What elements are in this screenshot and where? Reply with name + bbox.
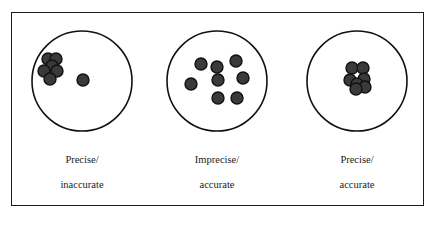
shot-dot: [346, 62, 358, 74]
shot-dot: [212, 92, 224, 104]
shot-dot: [211, 61, 223, 73]
shot-dot: [44, 73, 56, 85]
label-imprecise-accurate-line1: Imprecise/: [157, 155, 277, 166]
label-precise-inaccurate-line2: inaccurate: [22, 180, 142, 191]
shot-dot: [237, 72, 249, 84]
shot-dot: [77, 74, 89, 86]
shot-dot: [350, 83, 362, 95]
shot-dot: [231, 92, 243, 104]
label-precise-accurate-line2: accurate: [297, 180, 417, 191]
shot-dot: [185, 78, 197, 90]
target-precise-accurate: [307, 31, 407, 131]
shot-dot: [195, 58, 207, 70]
label-imprecise-accurate-line2: accurate: [157, 180, 277, 191]
target-imprecise-accurate: [167, 31, 267, 131]
shot-dot: [212, 74, 224, 86]
target-precise-inaccurate: [32, 31, 132, 131]
label-precise-inaccurate-line1: Precise/: [22, 155, 142, 166]
shot-dot: [357, 62, 369, 74]
label-precise-accurate-line1: Precise/: [297, 155, 417, 166]
shot-dot: [230, 55, 242, 67]
